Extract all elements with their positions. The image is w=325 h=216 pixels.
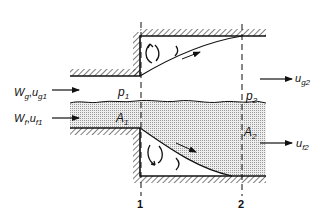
section-1-number: 1: [137, 198, 143, 210]
section-2-number: 2: [238, 198, 244, 210]
inlet-gas-label: Wg,ug1: [14, 86, 47, 101]
pressure-2-label: p2: [245, 89, 258, 105]
upper-eddy-icon: [146, 44, 178, 63]
pressure-1-label: p1: [117, 85, 129, 101]
upper-wall: [70, 29, 266, 76]
outlet-liquid-label: uf2: [296, 137, 309, 152]
sudden-expansion-diagram: Wg,ug1 Wf,uf1 p1 p2 A1 A2 ug2 uf2 1 2: [0, 0, 325, 216]
outlet-gas-label: ug2: [295, 72, 311, 87]
inlet-liquid-label: Wf,uf1: [14, 112, 42, 127]
